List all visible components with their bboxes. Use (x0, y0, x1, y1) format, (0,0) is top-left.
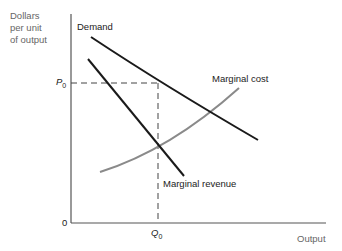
origin-label: 0 (62, 217, 67, 228)
q0-tick-label: Q0 (151, 227, 162, 240)
x-axis-label: Output (297, 233, 326, 244)
y-axis-label-line-1: Dollars (10, 10, 47, 22)
y-axis-label: Dollars per unit of output (10, 10, 47, 46)
demand-curve (91, 37, 258, 140)
chart-canvas (0, 0, 342, 251)
y-axis-label-line-2: per unit (10, 22, 47, 34)
p0-sub: 0 (62, 82, 66, 89)
demand-label: Demand (77, 21, 113, 32)
marginal-revenue-label: Marginal revenue (163, 178, 236, 189)
marginal-cost-label: Marginal cost (212, 73, 269, 84)
y-axis-label-line-3: of output (10, 34, 47, 46)
q0-sub: 0 (158, 233, 162, 240)
p0-tick-label: P0 (56, 76, 66, 89)
